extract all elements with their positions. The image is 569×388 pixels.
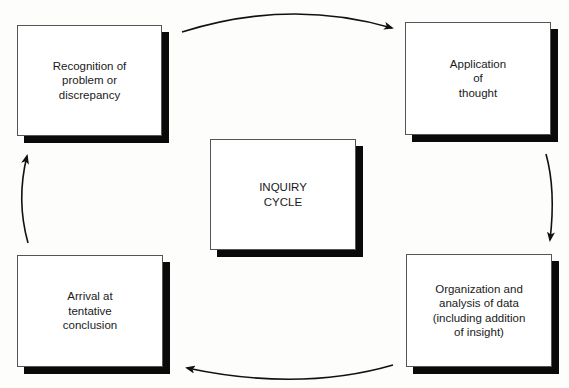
node-application: Application of thought [405,22,558,142]
arrow-organization-to-arrival [187,365,393,379]
label-organization: Organization and analysis of data (inclu… [433,282,526,340]
node-arrival: Arrival at tentative conclusion [17,255,170,374]
label-center: INQUIRY CYCLE [259,180,307,209]
node-organization: Organization and analysis of data (inclu… [406,254,559,374]
box-arrival: Arrival at tentative conclusion [17,255,163,367]
box-center: INQUIRY CYCLE [210,139,356,250]
label-application: Application of thought [450,57,506,101]
arrow-application-to-organization [546,154,552,240]
box-application: Application of thought [405,22,551,135]
box-organization: Organization and analysis of data (inclu… [406,254,552,367]
arrow-arrival-to-recognition [22,156,28,243]
node-center: INQUIRY CYCLE [210,139,363,257]
label-recognition: Recognition of problem or discrepancy [53,59,127,103]
label-arrival: Arrival at tentative conclusion [63,289,117,333]
arrow-recognition-to-application [182,14,392,32]
box-recognition: Recognition of problem or discrepancy [17,25,162,136]
node-recognition: Recognition of problem or discrepancy [17,25,169,143]
